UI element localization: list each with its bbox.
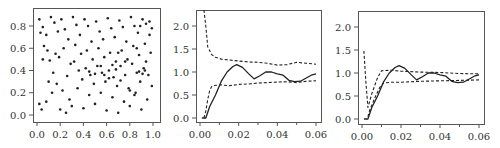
scatter-point [76,87,79,90]
scatter-point [94,103,97,106]
scatter-point [137,31,140,34]
scatter-point [103,74,106,77]
x-tick-label: 0.06 [468,131,490,142]
envelope-line [204,81,316,118]
scatter-point [83,18,86,21]
y-tick-label: 0.5 [335,91,351,102]
x-tick-label: 0.4 [75,129,91,140]
y-tick-label: 0.2 [10,87,26,98]
y-tick-label: 1.5 [173,44,189,55]
scatter-point [144,69,147,72]
scatter-point [39,31,42,34]
scatter-point [71,105,74,108]
x-tick-label: 0.0 [29,129,45,140]
scatter-point [148,20,151,23]
scatter-point [87,25,90,28]
scatter-point [131,63,134,66]
scatter-point [97,47,100,50]
scatter-point [43,45,46,48]
y-tick-label: 0.0 [10,110,26,121]
x-tick-label: 0.02 [228,129,250,140]
scatter-point [53,21,56,24]
scatter-point [108,69,111,72]
y-tick-label: 0.6 [10,43,26,54]
scatter-point [100,91,103,94]
scatter-point [134,91,137,94]
scatter-point [151,85,154,88]
scatter-point [141,18,144,21]
x-tick-label: 0.02 [390,131,412,142]
scatter-point [88,70,91,73]
scatter-point [117,111,120,114]
scatter-point [74,44,77,47]
scatter-point [45,34,48,37]
scatter-point [115,68,118,71]
scatter-point [145,60,148,63]
scatter-point [64,28,67,31]
scatter-point [132,45,135,48]
scatter-point [123,100,126,103]
scatter-point [124,60,127,63]
scatter-point [115,60,118,63]
scatter-point [125,40,128,43]
scatter-panel: 0.00.20.40.60.81.00.00.20.40.60.8 [10,9,161,141]
scatter-point [127,87,130,90]
envelope-line [368,80,479,117]
scatter-point [47,80,50,83]
scatter-point [124,74,127,77]
x-tick-label: 0.04 [429,131,451,142]
line-panel-middle: 0.000.020.040.060.00.51.01.52.0 [173,10,327,140]
scatter-point [60,18,63,21]
estimate-line [202,65,316,118]
scatter-point [142,67,145,70]
y-tick-label: 1.0 [173,67,189,78]
scatter-point [109,51,112,54]
scatter-point [148,34,151,37]
scatter-point [86,49,89,52]
scatter-point [46,49,49,52]
scatter-point [141,73,144,76]
scatter-point [45,100,48,103]
scatter-point [108,77,111,80]
scatter-point [67,38,70,41]
scatter-point [66,75,69,78]
scatter-point [111,64,114,67]
scatter-point [135,71,138,74]
scatter-point [122,26,125,29]
scatter-point [96,65,99,68]
scatter-point [58,56,61,59]
scatter-point [59,108,62,111]
scatter-point [120,49,123,52]
scatter-point [77,69,80,72]
scatter-point [112,76,115,79]
scatter-point [106,17,109,20]
scatter-point [146,98,149,101]
y-tick-label: 0.0 [335,114,351,125]
scatter-point [118,19,121,22]
scatter-point [126,58,129,61]
line-panel-right: 0.000.020.040.060.00.51.01.52.0 [335,12,490,143]
x-tick-label: 0.8 [122,129,138,140]
scatter-point [119,79,122,82]
scatter-point [129,89,132,92]
scatter-point [133,94,136,97]
scatter-point [72,16,75,19]
scatter-point [140,108,143,111]
scatter-point [50,16,53,19]
scatter-point [88,94,91,97]
scatter-point [98,30,101,33]
scatter-point [104,80,107,83]
scatter-point [40,108,43,111]
x-tick-label: 0.04 [266,129,288,140]
scatter-point [38,18,41,21]
y-tick-label: 0.0 [173,113,189,124]
scatter-point [93,83,96,86]
scatter-point [139,80,142,83]
scatter-point [113,36,116,39]
scatter-point [147,74,150,77]
x-tick-label: 0.6 [99,129,115,140]
scatter-point [149,51,152,54]
scatter-point [129,105,132,108]
x-tick-label: 0.00 [189,129,211,140]
scatter-point [133,25,136,28]
